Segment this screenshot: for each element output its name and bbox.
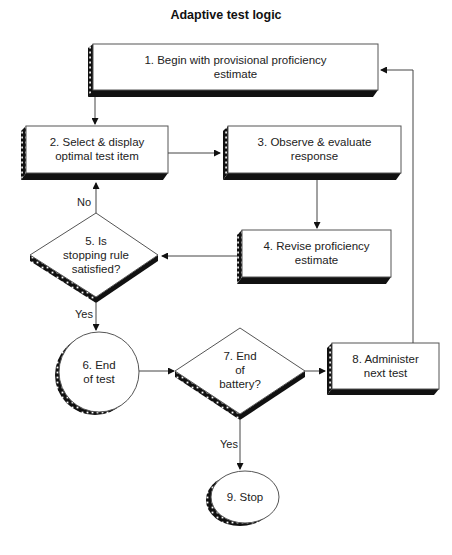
edge-label-5-2-no: No bbox=[77, 196, 91, 208]
node-3-label: 3. Observe & evaluate response bbox=[228, 135, 401, 163]
node-8-label: 8. Administer next test bbox=[332, 352, 439, 380]
edge-label-5-6-yes: Yes bbox=[75, 308, 93, 320]
edge-label-7-9-yes: Yes bbox=[220, 438, 238, 450]
node-6-label: 6. End of test bbox=[59, 358, 139, 386]
node-4-label: 4. Revise proficiency estimate bbox=[242, 239, 391, 267]
edge-8-1 bbox=[381, 70, 413, 343]
node-5-label: 5. Is stopping rule satisfied? bbox=[46, 234, 146, 276]
node-2-label: 2. Select & display optimal test item bbox=[26, 135, 168, 163]
node-7-label: 7. End of battery? bbox=[195, 349, 285, 391]
flowchart bbox=[0, 0, 452, 555]
node-1-label: 1. Begin with provisional proficiency es… bbox=[93, 53, 378, 81]
node-9-label: 9. Stop bbox=[211, 490, 279, 504]
